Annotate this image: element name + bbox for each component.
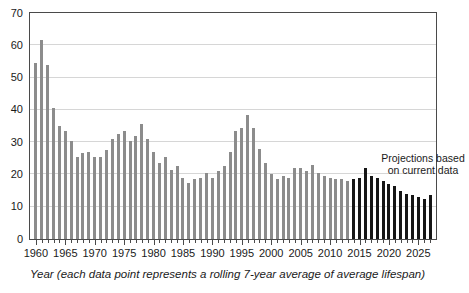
x-tick-minor: [318, 240, 319, 243]
bar: [64, 131, 67, 239]
bar: [217, 171, 220, 239]
x-tick-minor: [236, 240, 237, 243]
bar: [181, 178, 184, 239]
x-tick-minor: [83, 240, 84, 243]
x-tick-minor: [348, 240, 349, 243]
bar: [93, 157, 96, 239]
x-tick-minor: [336, 240, 337, 243]
x-tick-minor: [324, 240, 325, 243]
x-axis-labels: 1960196519701975198019851990199520002005…: [0, 247, 453, 261]
bar: [211, 178, 214, 239]
x-tick-minor: [354, 240, 355, 243]
x-axis-caption: Year (each data point represents a rolli…: [30, 268, 425, 280]
x-tick-minor: [224, 240, 225, 243]
bar: [123, 131, 126, 239]
bar: [299, 168, 302, 239]
x-tick-minor: [312, 240, 313, 243]
y-tick-label: 20: [11, 169, 23, 180]
bar: [205, 173, 208, 239]
x-tick-minor: [395, 240, 396, 243]
bar: [340, 179, 343, 239]
x-tick-minor: [401, 240, 402, 243]
bar: [252, 128, 255, 239]
projection-annotation: Projections based on current data: [368, 152, 469, 176]
bar: [187, 183, 190, 240]
y-tick-label: 30: [11, 137, 23, 148]
x-tick: [271, 240, 272, 245]
bar: [111, 139, 114, 239]
bar: [270, 174, 273, 239]
x-tick-minor: [89, 240, 90, 243]
y-tick-label: 70: [11, 8, 23, 19]
bar: [276, 179, 279, 239]
x-tick-label: 2020: [377, 247, 401, 259]
x-tick-label: 2015: [347, 247, 371, 259]
bar: [70, 141, 73, 239]
x-tick-minor: [412, 240, 413, 243]
bar: [40, 40, 43, 239]
x-tick-minor: [383, 240, 384, 243]
x-tick-label: 1960: [24, 247, 48, 259]
x-tick-minor: [101, 240, 102, 243]
bar: [399, 191, 402, 239]
bar: [382, 181, 385, 239]
bar: [176, 166, 179, 239]
y-tick-label: 40: [11, 104, 23, 115]
bar: [134, 136, 137, 239]
bar: [317, 173, 320, 239]
plot-area: Projections based on current data: [29, 12, 437, 240]
bar: [429, 195, 432, 239]
x-tick-minor: [59, 240, 60, 243]
x-tick-label: 2000: [259, 247, 283, 259]
y-tick-label: 10: [11, 201, 23, 212]
x-tick-label: 1995: [230, 247, 254, 259]
bar: [223, 166, 226, 239]
x-tick: [65, 240, 66, 245]
x-tick-minor: [365, 240, 366, 243]
x-tick-minor: [377, 240, 378, 243]
x-tick-minor: [54, 240, 55, 243]
bar: [76, 157, 79, 239]
bar: [364, 168, 367, 239]
bar: [323, 176, 326, 239]
x-tick-minor: [112, 240, 113, 243]
bar: [329, 178, 332, 239]
bar: [417, 197, 420, 239]
bar: [264, 163, 267, 239]
bar: [423, 199, 426, 239]
bar: [117, 134, 120, 239]
x-tick: [183, 240, 184, 245]
x-tick-minor: [265, 240, 266, 243]
x-tick-label: 1970: [82, 247, 106, 259]
x-tick: [95, 240, 96, 245]
x-tick-label: 2025: [406, 247, 430, 259]
bar: [405, 194, 408, 239]
bar: [146, 139, 149, 239]
bar: [52, 108, 55, 239]
x-tick: [360, 240, 361, 245]
bar: [129, 141, 132, 239]
x-tick-minor: [201, 240, 202, 243]
x-tick-minor: [42, 240, 43, 243]
x-tick-minor: [295, 240, 296, 243]
bar: [87, 152, 90, 239]
x-tick-minor: [424, 240, 425, 243]
x-tick: [418, 240, 419, 245]
x-tick-minor: [371, 240, 372, 243]
x-tick-minor: [342, 240, 343, 243]
bar: [234, 131, 237, 239]
x-tick-minor: [136, 240, 137, 243]
bar: [199, 178, 202, 239]
x-tick-minor: [165, 240, 166, 243]
bar: [229, 152, 232, 239]
x-tick-label: 1990: [200, 247, 224, 259]
x-tick-minor: [148, 240, 149, 243]
x-tick-minor: [283, 240, 284, 243]
bar: [58, 126, 61, 239]
bar: [376, 178, 379, 239]
x-tick-minor: [407, 240, 408, 243]
bar: [170, 170, 173, 239]
bar: [370, 176, 373, 239]
bar: [105, 150, 108, 239]
